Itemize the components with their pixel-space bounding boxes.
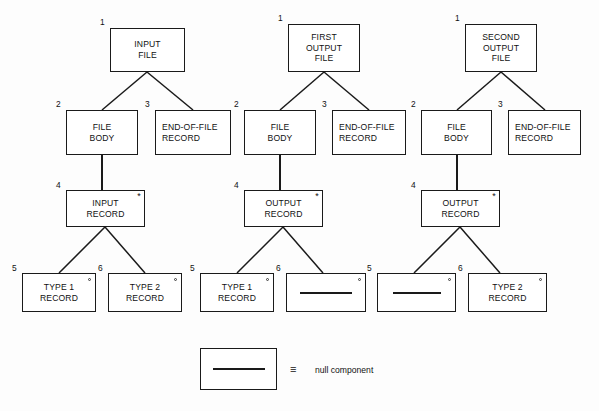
node-line: INPUT [134,39,161,50]
node-number-c3n6: 6 [458,264,463,273]
node-file-body-c3[interactable]: FILE BODY [421,110,492,155]
node-line: FILE [93,122,112,133]
node-number-c3n1: 1 [455,14,460,23]
link-c1-n1-n2 [102,72,147,110]
selection-circle-icon [174,278,177,281]
legend-equivalence-symbol: ≡ [290,364,296,375]
iteration-asterisk-icon: * [492,192,496,201]
node-line: FIRST [311,32,337,43]
node-line: TYPE 2 [492,282,523,293]
diagram-canvas: 1 INPUT FILE 2 FILE BODY 3 END-OF-FILE R… [0,0,599,411]
node-line: TYPE 1 [222,282,253,293]
selection-circle-icon [266,278,269,281]
node-end-of-file-record-c3[interactable]: END-OF-FILE RECORD [508,110,581,155]
node-line: FILE [492,53,511,64]
node-line: RECORD [218,293,256,304]
node-line: RECORD [162,133,200,144]
selection-circle-icon [448,278,451,281]
node-line: OUTPUT [265,198,301,209]
node-first-output-file[interactable]: FIRST OUTPUT FILE [288,24,360,72]
iteration-asterisk-icon: * [137,192,141,201]
node-number-c3n3: 3 [498,100,503,109]
node-line: BODY [268,133,293,144]
node-line: RECORD [126,293,164,304]
node-number-c3n2: 2 [411,100,416,109]
null-component-bar-icon [300,292,352,294]
node-null-component-c2[interactable] [286,273,366,312]
node-number-c1n4: 4 [56,181,61,190]
selection-circle-icon [358,278,361,281]
node-end-of-file-record-c1[interactable]: END-OF-FILE RECORD [155,110,231,155]
node-type-2-record-c3[interactable]: TYPE 2 RECORD [468,273,547,312]
node-line: RECORD [515,133,553,144]
node-number-c2n3: 3 [322,100,327,109]
node-line: END-OF-FILE [162,122,218,133]
node-number-c2n6: 6 [276,264,281,273]
selection-circle-icon [88,278,91,281]
node-line: TYPE 2 [130,282,161,293]
node-file-body-c1[interactable]: FILE BODY [66,110,138,155]
node-number-c3n5: 5 [367,264,372,273]
null-component-bar-icon [213,368,265,370]
selection-circle-icon [539,278,542,281]
node-line: INPUT [92,198,119,209]
node-output-record-c2[interactable]: * OUTPUT RECORD [244,190,323,227]
node-line: RECORD [488,293,526,304]
iteration-asterisk-icon: * [315,192,319,201]
node-number-c1n6: 6 [98,264,103,273]
node-output-record-c3[interactable]: * OUTPUT RECORD [421,190,500,227]
legend-label: null component [315,365,373,375]
node-number-c2n1: 1 [278,14,283,23]
link-c1-n1-n3 [147,72,193,110]
node-line: END-OF-FILE [515,122,571,133]
node-line: BODY [444,133,469,144]
link-c2-n1-n2 [280,72,324,110]
legend-null-component-box [200,348,277,390]
node-line: OUTPUT [483,43,519,54]
node-file-body-c2[interactable]: FILE BODY [244,110,316,155]
link-c3-n1-n2 [457,72,501,110]
node-line: FILE [271,122,290,133]
node-number-c2n4: 4 [234,181,239,190]
node-line: FILE [315,53,334,64]
node-input-file[interactable]: INPUT FILE [110,28,185,72]
link-c1-n4-n6 [105,227,145,273]
link-c2-n1-n3 [324,72,369,110]
node-line: END-OF-FILE [339,122,395,133]
node-input-record[interactable]: * INPUT RECORD [66,190,145,227]
node-number-c1n5: 5 [12,264,17,273]
node-number-c1n1: 1 [100,18,105,27]
node-type-1-record-c1[interactable]: TYPE 1 RECORD [22,273,96,312]
node-line: RECORD [264,209,302,220]
node-number-c1n3: 3 [145,100,150,109]
node-line: OUTPUT [306,43,342,54]
node-line: BODY [90,133,115,144]
node-line: RECORD [441,209,479,220]
node-line: RECORD [40,293,78,304]
node-line: RECORD [339,133,377,144]
node-number-c2n5: 5 [190,264,195,273]
link-c3-n4-n6 [460,227,500,273]
node-line: FILE [138,50,157,61]
node-number-c2n2: 2 [234,100,239,109]
node-line: SECOND [482,32,520,43]
node-line: FILE [447,122,466,133]
node-second-output-file[interactable]: SECOND OUTPUT FILE [465,24,537,72]
link-c3-n4-n5 [414,227,460,273]
node-null-component-c3[interactable] [377,273,456,312]
link-c2-n4-n6 [283,227,323,273]
node-line: RECORD [86,209,124,220]
node-type-2-record-c1[interactable]: TYPE 2 RECORD [108,273,182,312]
node-type-1-record-c2[interactable]: TYPE 1 RECORD [200,273,274,312]
node-line: TYPE 1 [44,282,75,293]
node-number-c3n4: 4 [411,181,416,190]
link-c3-n1-n3 [501,72,545,110]
node-number-c1n2: 2 [56,100,61,109]
null-component-bar-icon [393,292,441,294]
node-end-of-file-record-c2[interactable]: END-OF-FILE RECORD [332,110,406,155]
node-line: OUTPUT [442,198,478,209]
